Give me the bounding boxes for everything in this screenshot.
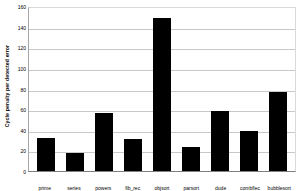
bar-slot (60, 8, 89, 171)
y-tick-label: 80 (20, 87, 26, 93)
bar[interactable] (95, 113, 113, 171)
bar-slot (235, 8, 264, 171)
bar[interactable] (66, 153, 84, 171)
y-axis-title: Cycle penalty per detected error (0, 0, 14, 172)
x-label-slot: series (59, 176, 88, 188)
bar[interactable] (153, 18, 171, 171)
x-tick-label: fib_rec (125, 185, 140, 191)
x-label-slot: fib_rec (118, 176, 147, 188)
bar-chart: Cycle penalty per detected error 0204060… (0, 0, 302, 191)
bar-slot (118, 8, 147, 171)
y-tick-label: 140 (18, 25, 26, 31)
x-label-slot: prime (30, 176, 59, 188)
x-tick-label: objsort (154, 185, 169, 191)
bar-slot (177, 8, 206, 171)
x-tick-label: dude (215, 185, 226, 191)
bar-slot (206, 8, 235, 171)
bar[interactable] (211, 111, 229, 171)
bar[interactable] (182, 147, 200, 171)
bar[interactable] (124, 139, 142, 171)
bar-slot (89, 8, 118, 171)
x-label-slot: parsort (177, 176, 206, 188)
plot-area (28, 7, 296, 172)
bar[interactable] (269, 92, 287, 171)
bars-layer (29, 8, 295, 171)
x-tick-label: series (67, 185, 80, 191)
y-tick-label: 60 (20, 107, 26, 113)
y-axis-title-text: Cycle penalty per detected error (4, 45, 10, 127)
bar-slot (147, 8, 176, 171)
y-tick-label: 160 (18, 4, 26, 10)
x-tick-label: parsort (184, 185, 200, 191)
y-tick-label: 20 (20, 148, 26, 154)
bar-slot (264, 8, 293, 171)
x-tick-label: powers (95, 185, 111, 191)
y-tick-label: 120 (18, 45, 26, 51)
y-axis-tick-labels: 020406080100120140160 (13, 0, 27, 191)
bar-slot (31, 8, 60, 171)
bar[interactable] (240, 131, 258, 171)
x-tick-label: bubblesort (268, 185, 291, 191)
y-tick-label: 40 (20, 128, 26, 134)
bar[interactable] (37, 138, 55, 171)
x-tick-label: combflec (240, 185, 260, 191)
x-label-slot: bubblesort (265, 176, 294, 188)
x-axis-tick-labels: primeseriespowersfib_recobjsortparsortdu… (28, 176, 296, 188)
y-tick-label: 0 (23, 169, 26, 175)
x-tick-label: prime (38, 185, 51, 191)
y-tick-label: 100 (18, 66, 26, 72)
x-label-slot: powers (89, 176, 118, 188)
x-label-slot: combflec (235, 176, 264, 188)
x-label-slot: dude (206, 176, 235, 188)
x-label-slot: objsort (147, 176, 176, 188)
